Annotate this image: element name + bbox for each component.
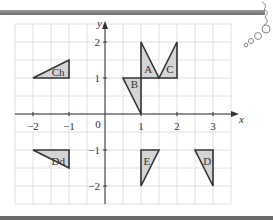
x-axis-label: x <box>238 113 244 125</box>
y-axis-label: y <box>96 17 102 29</box>
x-tick-label: 2 <box>174 120 180 132</box>
y-tick-label: 1 <box>95 72 101 84</box>
y-tick-label: 2 <box>95 36 101 48</box>
triangle-label-d: D <box>203 155 211 167</box>
triangle-label-e: E <box>143 155 150 167</box>
triangle-label-dd: Dd <box>51 155 65 167</box>
origin-label: 0 <box>95 118 101 130</box>
x-tick-label: 3 <box>210 120 216 132</box>
y-tick-label: −1 <box>88 144 100 156</box>
x-tick-label: 1 <box>138 120 144 132</box>
coordinate-grid-figure: ABCChDdED xy0−2−112321−1−2 <box>0 0 273 220</box>
y-tick-label: −2 <box>88 180 100 192</box>
triangle-label-b: B <box>131 78 138 90</box>
triangle-label-ch: Ch <box>52 66 65 78</box>
x-tick-label: −2 <box>27 120 39 132</box>
x-tick-label: −1 <box>63 120 75 132</box>
y-axis-arrow-icon <box>102 21 108 29</box>
triangle-label-a: A <box>144 63 152 75</box>
axes <box>15 21 239 204</box>
x-axis-arrow-icon <box>231 111 239 117</box>
triangle-label-c: C <box>166 63 173 75</box>
